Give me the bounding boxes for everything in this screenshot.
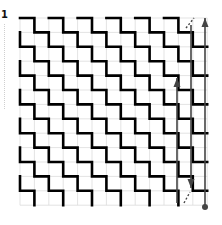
- staircase-lines: [20, 18, 207, 205]
- dashed-segment: [184, 192, 190, 203]
- staircase: [20, 176, 34, 205]
- dot-icon: [202, 204, 208, 210]
- staircase-diagram: [0, 0, 222, 225]
- down-arrow: [188, 25, 195, 188]
